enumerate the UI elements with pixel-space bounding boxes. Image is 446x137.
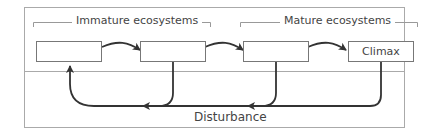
node-mature-1: [243, 41, 309, 62]
disturbance-label: Disturbance: [190, 111, 271, 123]
node-label: Climax: [362, 45, 400, 58]
arrow-3-4: [308, 43, 346, 50]
disturbance-from-node2: [143, 62, 173, 106]
node-climax: Climax: [348, 41, 414, 62]
node-immature-2: [140, 41, 206, 62]
group-label-mature: Mature ecosystems: [280, 15, 395, 27]
disturbance-from-climax: [252, 62, 381, 106]
node-immature-1: [36, 41, 102, 62]
arrow-1-2: [102, 43, 140, 50]
group-label-immature: Immature ecosystems: [72, 15, 202, 27]
arrow-2-3: [205, 43, 243, 50]
disturbance-from-node3: [248, 62, 276, 106]
